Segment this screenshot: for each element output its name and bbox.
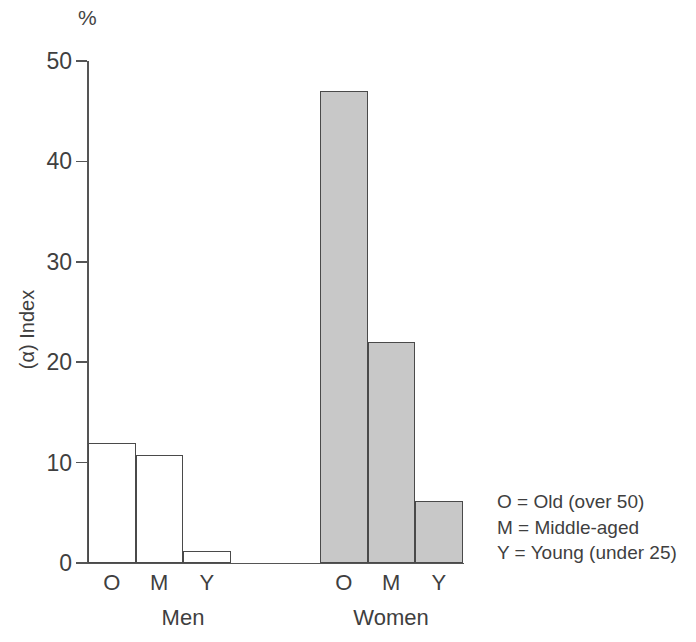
- y-axis-tick-mark: [76, 462, 87, 464]
- category-label-men-y: Y: [199, 570, 214, 596]
- legend-entry-old: O = Old (over 50): [497, 489, 677, 515]
- bar-women-m: [368, 342, 416, 563]
- y-axis-tick-mark: [76, 562, 87, 564]
- legend-entry-young: Y = Young (under 25): [497, 540, 677, 566]
- legend-entry-middle-aged: M = Middle-aged: [497, 515, 677, 541]
- y-axis-tick-label: 40: [0, 148, 72, 175]
- bar-men-m: [136, 455, 184, 563]
- category-label-women-m: M: [382, 570, 400, 596]
- y-axis-tick-mark: [76, 261, 87, 263]
- bar-men-y: [183, 551, 231, 563]
- bar-women-o: [320, 91, 368, 563]
- y-axis-tick-mark: [76, 161, 87, 163]
- y-axis-tick-label: 50: [0, 48, 72, 75]
- y-axis-unit-label: %: [78, 6, 97, 30]
- y-axis-tick-mark: [76, 361, 87, 363]
- category-label-women-o: O: [335, 570, 352, 596]
- legend: O = Old (over 50) M = Middle-aged Y = Yo…: [497, 489, 677, 566]
- category-label-women-y: Y: [431, 570, 446, 596]
- category-label-men-o: O: [103, 570, 120, 596]
- bar-women-y: [415, 501, 463, 563]
- y-axis-tick-label: 0: [0, 550, 72, 577]
- bar-chart-figure: % 01020304050 (α) Index OMYOMY Men Women…: [0, 0, 696, 642]
- y-axis-tick-mark: [76, 60, 87, 62]
- y-axis-title: (α) Index: [16, 240, 39, 420]
- group-label-women: Women: [353, 605, 428, 631]
- group-label-men: Men: [162, 605, 205, 631]
- y-axis-tick-label: 10: [0, 449, 72, 476]
- category-label-men-m: M: [150, 570, 168, 596]
- bar-men-o: [88, 443, 136, 563]
